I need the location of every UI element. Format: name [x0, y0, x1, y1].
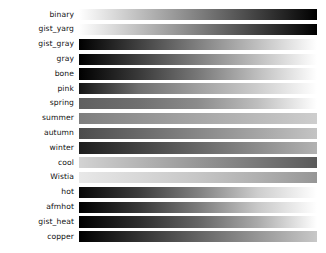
- colormap-gradient-bar: [79, 98, 317, 109]
- colormap-gradient-bar: [79, 54, 317, 65]
- colormap-label: gist_heat: [0, 215, 74, 230]
- colormap-label: gist_gray: [0, 37, 74, 52]
- colormap-label: winter: [0, 141, 74, 156]
- colormap-gradient-bar: [79, 113, 317, 124]
- colormap-gradient-bar: [79, 142, 317, 153]
- colormap-row: winter: [0, 141, 326, 156]
- colormap-label: spring: [0, 96, 74, 111]
- colormap-row: gist_gray: [0, 37, 326, 52]
- colormap-row: copper: [0, 230, 326, 245]
- colormap-gradient-bar: [79, 24, 317, 35]
- colormap-label: pink: [0, 82, 74, 97]
- colormap-row: autumn: [0, 126, 326, 141]
- colormap-gradient-bar: [79, 68, 317, 79]
- colormap-gradient-bar: [79, 128, 317, 139]
- colormap-label: afmhot: [0, 200, 74, 215]
- colormap-label: summer: [0, 111, 74, 126]
- colormap-row: summer: [0, 111, 326, 126]
- colormap-row: pink: [0, 82, 326, 97]
- colormap-row: gray: [0, 52, 326, 67]
- colormap-row: cool: [0, 156, 326, 171]
- colormap-gradient-bar: [79, 216, 317, 227]
- colormap-row: Wistia: [0, 170, 326, 185]
- colormap-row: afmhot: [0, 200, 326, 215]
- colormap-label: cool: [0, 156, 74, 171]
- colormap-label: hot: [0, 185, 74, 200]
- colormap-gradient-bar: [79, 157, 317, 168]
- colormap-row: gist_yarg: [0, 22, 326, 37]
- colormap-row: gist_heat: [0, 215, 326, 230]
- colormap-gradient-bar: [79, 9, 317, 20]
- colormap-row: spring: [0, 96, 326, 111]
- colormap-label: bone: [0, 67, 74, 82]
- colormap-label: binary: [0, 8, 74, 23]
- colormap-gradient-bar: [79, 83, 317, 94]
- colormap-row: hot: [0, 185, 326, 200]
- colormap-gradient-bar: [79, 231, 317, 242]
- colormap-label: gist_yarg: [0, 22, 74, 37]
- colormap-gradient-bar: [79, 172, 317, 183]
- colormap-row: binary: [0, 8, 326, 23]
- colormap-gradient-bar: [79, 187, 317, 198]
- colormap-label: Wistia: [0, 170, 74, 185]
- colormap-reference-figure: binarygist_yarggist_graygraybonepinkspri…: [0, 0, 326, 253]
- colormap-label: autumn: [0, 126, 74, 141]
- colormap-row: bone: [0, 67, 326, 82]
- colormap-label: copper: [0, 230, 74, 245]
- colormap-gradient-bar: [79, 39, 317, 50]
- colormap-gradient-bar: [79, 202, 317, 213]
- colormap-label: gray: [0, 52, 74, 67]
